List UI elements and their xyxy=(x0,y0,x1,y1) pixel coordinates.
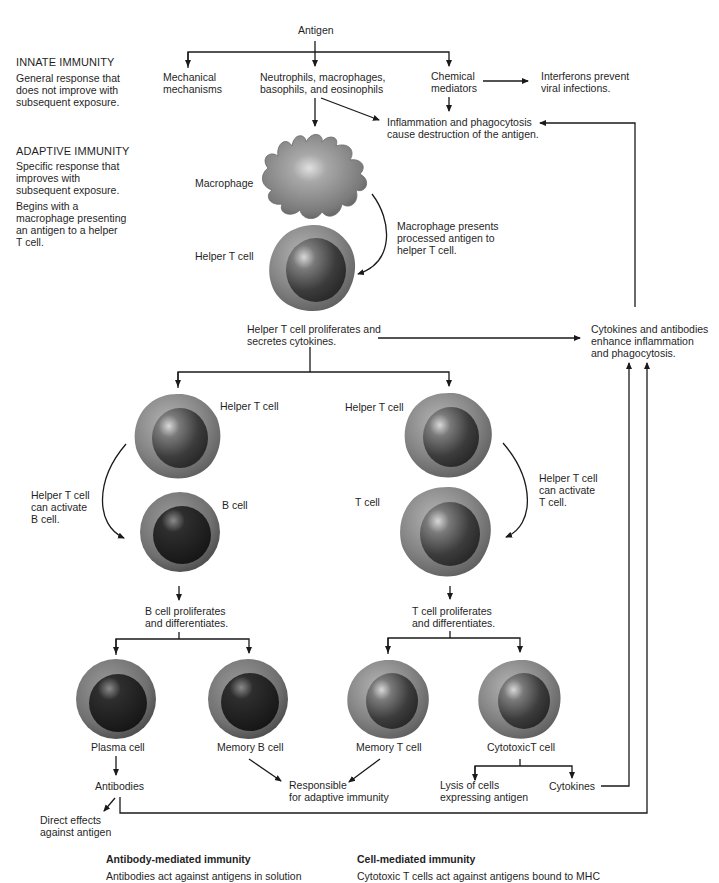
helper-t-cell-left-icon xyxy=(133,392,223,480)
mechanical-mechanisms-label: Mechanical xyxy=(163,71,216,84)
lysis-label: Lysis of cells xyxy=(440,779,499,792)
chemical-mediators-label: Chemical xyxy=(431,70,475,83)
cytokines-antibodies-label: enhance inflammation xyxy=(591,335,694,348)
cytotoxic-t-cell-icon xyxy=(477,658,561,740)
adaptive-desc-line: T cell. xyxy=(16,236,44,249)
macrophage-presents-label: helper T cell. xyxy=(397,244,457,257)
innate-immunity-title: INNATE IMMUNITY xyxy=(16,56,114,69)
memory-b-cell-label: Memory B cell xyxy=(217,741,284,754)
b-cell-label: B cell xyxy=(222,499,248,512)
helper-proliferates-label: secretes cytokines. xyxy=(247,335,336,348)
inflammation-label: Inflammation and phagocytosis xyxy=(387,116,532,129)
macrophage-presents-label: processed antigen to xyxy=(397,232,494,245)
helper-proliferates-label: Helper T cell proliferates and xyxy=(247,323,381,336)
antibody-mediated-title: Antibody-mediated immunity xyxy=(106,853,251,866)
cytotoxic-t-cell-label: CytotoxicT cell xyxy=(487,741,555,754)
plasma-cell-label: Plasma cell xyxy=(91,741,145,754)
cytokines-antibodies-label: and phagocytosis. xyxy=(591,347,676,360)
helper-t-cell-right-label: Helper T cell xyxy=(345,401,404,414)
macrophage-presents-label: Macrophage presents xyxy=(397,220,499,233)
interferons-label: Interferons prevent xyxy=(541,70,629,83)
innate-desc-line: subsequent exposure. xyxy=(16,96,119,109)
macrophage-label: Macrophage xyxy=(195,177,253,190)
antibody-mediated-text: Antibodies act against antigens in solut… xyxy=(106,870,302,883)
activate-b-label: B cell. xyxy=(31,513,60,526)
innate-desc-line: does not improve with xyxy=(16,84,118,97)
cell-mediated-text: Cytotoxic T cells act against antigens b… xyxy=(357,870,600,883)
memory-b-cell-icon xyxy=(207,658,289,740)
adaptive-desc-line: subsequent exposure. xyxy=(16,184,119,197)
t-proliferates-label: and differentiates. xyxy=(412,617,495,630)
inflammation-label: cause destruction of the antigen. xyxy=(387,128,539,141)
direct-effects-label: Direct effects xyxy=(40,814,101,827)
innate-desc-line: General response that xyxy=(16,72,120,85)
direct-effects-label: against antigen xyxy=(40,826,111,839)
helper-t-cell-left-label: Helper T cell xyxy=(220,400,279,413)
helper-t-cell-icon xyxy=(266,222,358,314)
responsible-label: for adaptive immunity xyxy=(289,791,389,804)
cell-mediated-title: Cell-mediated immunity xyxy=(357,853,475,866)
activate-b-label: Helper T cell xyxy=(31,489,90,502)
plasma-cell-icon xyxy=(75,658,157,740)
activate-t-label: can activate xyxy=(539,484,595,497)
adaptive-desc-line: Begins with a xyxy=(16,200,78,213)
t-proliferates-label: T cell proliferates xyxy=(412,605,492,618)
b-cell-icon xyxy=(138,490,222,574)
activate-b-label: can activate xyxy=(31,501,87,514)
helper-t-cell-right-icon xyxy=(403,391,493,479)
b-proliferates-label: B cell proliferates xyxy=(145,605,226,618)
antigen-label: Antigen xyxy=(298,24,334,37)
adaptive-desc-line: macrophage presenting xyxy=(16,212,126,225)
t-cell-label: T cell xyxy=(355,496,380,509)
memory-t-cell-label: Memory T cell xyxy=(356,741,422,754)
adaptive-desc-line: improves with xyxy=(16,172,80,185)
adaptive-desc-line: Specific response that xyxy=(16,160,119,173)
adaptive-immunity-title: ADAPTIVE IMMUNITY xyxy=(16,145,130,158)
chemical-mediators-label: mediators xyxy=(431,82,477,95)
b-proliferates-label: and differentiates. xyxy=(145,617,228,630)
cytokines-antibodies-label: Cytokines and antibodies xyxy=(591,323,708,336)
neutrophils-label: basophils, and eosinophils xyxy=(260,83,383,96)
interferons-label: viral infections. xyxy=(541,82,610,95)
antibodies-label: Antibodies xyxy=(95,780,144,793)
neutrophils-label: Neutrophils, macrophages, xyxy=(260,71,385,84)
lysis-label: expressing antigen xyxy=(440,791,528,804)
helper-t-cell-label: Helper T cell xyxy=(195,250,254,263)
mechanical-mechanisms-label: mechanisms xyxy=(163,83,222,96)
responsible-label: Responsible xyxy=(289,779,347,792)
memory-t-cell-icon xyxy=(346,658,430,740)
cytokines-label: Cytokines xyxy=(549,780,595,793)
t-cell-icon xyxy=(398,484,494,580)
activate-t-label: T cell. xyxy=(539,496,567,509)
activate-t-label: Helper T cell xyxy=(539,472,598,485)
macrophage-cell-icon xyxy=(256,128,376,223)
adaptive-desc-line: an antigen to a helper xyxy=(16,224,118,237)
